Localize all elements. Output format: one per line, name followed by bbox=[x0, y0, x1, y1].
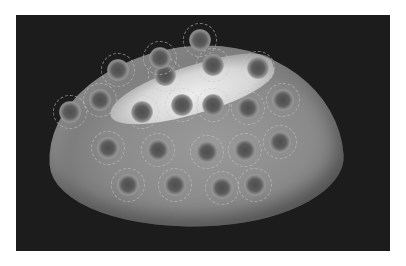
polyp-spot bbox=[131, 101, 153, 123]
polyp-spot bbox=[272, 89, 294, 111]
polyp-spot bbox=[269, 131, 291, 153]
polyp-spot bbox=[164, 174, 186, 196]
polyp-spot bbox=[196, 141, 218, 163]
polyp-spot bbox=[97, 137, 119, 159]
polyp-spot bbox=[234, 139, 256, 161]
polyp-spot bbox=[247, 57, 269, 79]
polyp-spot bbox=[89, 89, 111, 111]
polyp-spot bbox=[211, 177, 233, 199]
polyp-spot bbox=[171, 94, 193, 116]
photo-backdrop bbox=[16, 15, 390, 251]
polyp-spot bbox=[202, 94, 224, 116]
polyp-spot bbox=[147, 139, 169, 161]
polyp-spot bbox=[117, 174, 139, 196]
polyp-spot bbox=[107, 59, 129, 81]
polyp-spot bbox=[59, 101, 81, 123]
polyp-spot bbox=[244, 174, 266, 196]
polyp-spot bbox=[149, 47, 171, 69]
polyp-spot bbox=[189, 29, 211, 51]
petoskey-stone bbox=[42, 36, 348, 237]
polyp-spot bbox=[237, 97, 259, 119]
polyp-spot bbox=[202, 54, 224, 76]
